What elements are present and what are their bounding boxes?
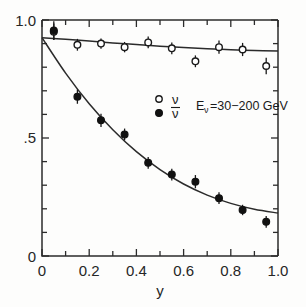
y-tick-label-0point5: .5: [23, 129, 36, 146]
data-point-nubar: [192, 178, 199, 185]
x-axis-ticks: [42, 249, 278, 256]
data-point-nu: [98, 40, 105, 47]
scatter-plot: 1.0 .5 0 0 0.2 0.4 0.6 0.8 1.0 y ν ν E ν…: [0, 0, 306, 307]
x-tick-label-1point0: 1.0: [268, 262, 289, 279]
y-tick-label-0: 0: [28, 248, 36, 265]
legend-marker-filled-circle: [156, 110, 163, 117]
legend-energy-value: =30−200 GeV: [210, 99, 289, 113]
data-point-nubar: [263, 218, 270, 225]
data-point-nu: [239, 46, 246, 53]
data-point-nubar: [145, 159, 152, 166]
data-point-nu: [263, 63, 270, 70]
x-tick-label-0: 0: [38, 262, 46, 279]
legend-energy-subscript: ν: [204, 105, 209, 115]
data-point-nu: [121, 44, 128, 51]
figure-panel: 1.0 .5 0 0 0.2 0.4 0.6 0.8 1.0 y ν ν E ν…: [0, 0, 306, 307]
data-point-nubar: [216, 195, 223, 202]
data-point-nu: [216, 44, 223, 51]
data-point-nubar: [239, 207, 246, 214]
data-point-nubar: [121, 131, 128, 138]
data-point-nu: [145, 39, 152, 46]
y-axis-right-ticks: [271, 20, 278, 256]
data-point-nu: [192, 58, 199, 65]
data-point-nu: [169, 45, 176, 52]
x-tick-label-0point2: 0.2: [79, 262, 100, 279]
x-axis-title: y: [156, 282, 164, 299]
x-axis-top-ticks: [42, 20, 278, 27]
legend-marker-open-circle: [156, 96, 162, 102]
x-tick-label-0point6: 0.6: [173, 262, 194, 279]
y-axis-ticks: [42, 20, 49, 256]
y-tick-label-1: 1.0: [15, 12, 36, 29]
data-point-nubar: [168, 171, 175, 178]
x-tick-label-0point4: 0.4: [126, 262, 147, 279]
data-point-nubar: [98, 117, 105, 124]
data-point-nu: [74, 41, 81, 48]
legend-label-nu: ν: [172, 92, 179, 107]
data-point-nubar: [50, 27, 57, 34]
x-tick-label-0point8: 0.8: [220, 262, 241, 279]
data-series-nubar: [50, 21, 269, 228]
data-series-nu: [51, 24, 270, 75]
legend: ν ν E ν =30−200 GeV: [156, 92, 289, 121]
data-point-nubar: [74, 93, 81, 100]
fit-curve-nubar: [42, 38, 278, 213]
legend-label-nubar: ν: [172, 106, 179, 121]
